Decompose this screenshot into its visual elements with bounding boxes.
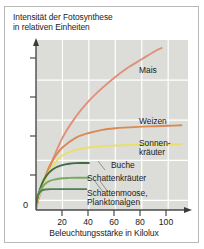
series-label-weizen: Weizen <box>139 117 167 126</box>
x-axis-label: Beleuchtungsstärke in Kilolux <box>10 228 198 238</box>
series-label-buche: Buche <box>111 161 135 170</box>
x-tick-label-100: 100 <box>153 217 179 227</box>
x-tick-label-20: 20 <box>49 217 75 227</box>
series-label-mais: Mais <box>139 66 157 75</box>
curve-schattenmoose-planktonalgen <box>36 189 86 204</box>
chart-title: Intensität der Fotosynthese in relativen… <box>13 12 188 32</box>
series-label-schattenmoose-line2: Planktonalgen <box>87 198 140 207</box>
series-label-sonnenkraeuter-line2: kräuter <box>139 148 165 157</box>
y-axis-zero-label: 0 <box>23 200 28 210</box>
series-curves <box>36 48 181 210</box>
chart-title-line1: Intensität der Fotosynthese <box>13 12 188 22</box>
x-tick-label-40: 40 <box>75 217 101 227</box>
series-label-schattenkraeuter: Schattenkräuter <box>87 174 146 183</box>
chart-title-line2: in relativen Einheiten <box>13 22 188 32</box>
x-tick-label-60: 60 <box>101 217 127 227</box>
photosynthesis-light-response-chart: Intensität der Fotosynthese in relativen… <box>0 0 204 249</box>
x-tick-label-80: 80 <box>127 217 153 227</box>
